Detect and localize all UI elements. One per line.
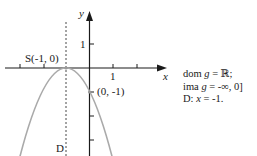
x-tick-label: 1: [110, 70, 116, 82]
function-properties: dom g = ℝ; ima g = -∞, 0] D: x = -1.: [183, 68, 243, 106]
intercept-point: [88, 90, 91, 93]
y-tick-label: 1: [80, 38, 86, 50]
y-axis-arrow-icon: [86, 11, 93, 21]
image-line: ima g = -∞, 0]: [183, 81, 243, 94]
symmetry-axis-label: D: [56, 142, 64, 154]
x-axis-label: x: [162, 70, 168, 82]
intercept-label: (0, -1): [97, 85, 125, 98]
symmetry-line: D: x = -1.: [183, 93, 243, 106]
vertex-point: [64, 66, 67, 69]
domain-line: dom g = ℝ;: [183, 68, 243, 81]
y-axis-label: y: [78, 7, 84, 19]
vertex-label: S(-1, 0): [25, 52, 59, 65]
